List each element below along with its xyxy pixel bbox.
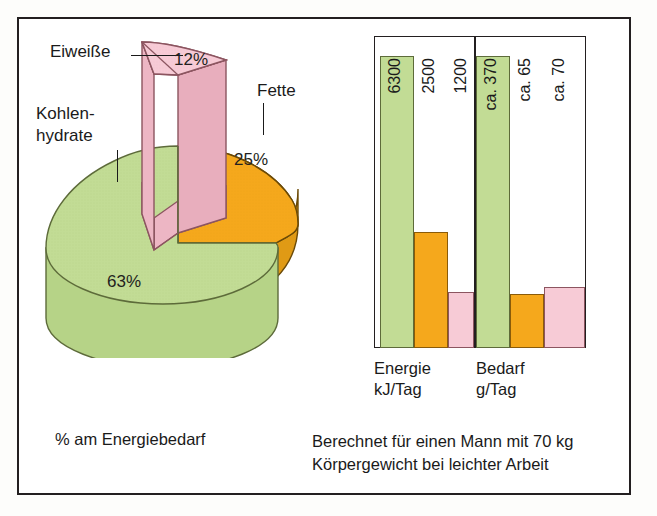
pie-label-protein: Eiweiße: [50, 42, 110, 62]
pie-label-carbohydrate-line2: hydrate: [36, 126, 93, 145]
bar-value-demand-protein: ca. 70: [550, 58, 568, 102]
leader-line-carbohydrate: [117, 150, 118, 182]
bar-axis-label-demand-line1: Bedarf: [476, 359, 525, 377]
figure-canvas: Eiweiße Kohlen- hydrate Fette 12% 25% 63…: [0, 0, 657, 516]
pie-chart: [30, 28, 330, 358]
pie-label-carbohydrate: Kohlen- hydrate: [36, 103, 95, 147]
bar-value-energy-protein: 1200: [452, 58, 470, 94]
leader-line-fat: [263, 103, 264, 135]
bar-value-demand-fat: ca. 65: [516, 58, 534, 102]
pie-value-carbohydrate: 63%: [107, 272, 141, 292]
bar-energy-protein: [448, 292, 474, 348]
bar-demand-fat: [510, 294, 544, 348]
bar-axis-label-demand-line2: g/Tag: [476, 380, 516, 398]
caption-left: % am Energiebedarf: [55, 430, 205, 449]
caption-right-line2: Körpergewicht bei leichter Arbeit: [312, 455, 549, 473]
pie-label-fat: Fette: [257, 81, 296, 101]
pie-label-carbohydrate-line1: Kohlen-: [36, 104, 95, 123]
caption-right-line1: Berechnet für einen Mann mit 70 kg: [312, 432, 573, 450]
bar-axis-label-energy-line2: kJ/Tag: [374, 380, 422, 398]
bar-axis-label-energy: Energie kJ/Tag: [374, 358, 431, 400]
pie-slice-protein: [142, 42, 226, 250]
bar-axis-label-demand: Bedarf g/Tag: [476, 358, 525, 400]
caption-right: Berechnet für einen Mann mit 70 kg Körpe…: [312, 430, 573, 476]
bar-demand-protein: [544, 287, 585, 348]
pie-value-protein: 12%: [174, 50, 208, 70]
bar-energy-carbohydrate: [380, 56, 414, 348]
bar-energy-fat: [414, 232, 448, 348]
bar-axis-label-energy-line1: Energie: [374, 359, 431, 377]
bar-value-energy-fat: 2500: [420, 58, 438, 94]
pie-value-fat: 25%: [234, 150, 268, 170]
bar-value-demand-carbohydrate: ca. 370: [482, 58, 500, 110]
bar-chart: 6300 2500 1200 ca. 370 ca. 65 ca. 70: [374, 36, 586, 348]
bar-value-energy-carbohydrate: 6300: [386, 58, 404, 94]
